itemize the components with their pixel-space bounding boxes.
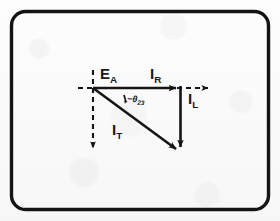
vector-diagram [0,0,280,221]
label-it: IT [112,122,122,141]
label-ea: EA [100,66,117,85]
label-ea-subscript: A [110,74,117,85]
figure-frame [12,12,269,210]
label-angle-subscript: 23 [137,99,144,106]
label-ea-symbol: E [100,65,110,82]
label-angle-theta: −θ23 [127,95,145,107]
label-it-subscript: T [116,130,122,141]
label-il-subscript: L [192,99,198,110]
label-il: IL [188,91,198,110]
label-ir: IR [150,66,161,85]
label-ir-subscript: R [154,74,161,85]
figure-root: EA IR IL IT −θ23 [0,0,280,221]
